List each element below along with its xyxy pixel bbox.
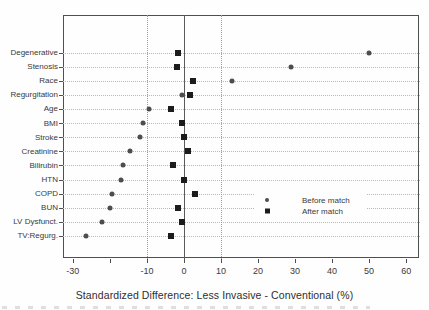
legend-label-after-match: After match (302, 206, 343, 215)
y-axis-tick (59, 208, 63, 209)
y-axis-tick (59, 151, 63, 152)
x-tick-label: 50 (364, 266, 374, 276)
x-tick-label: 20 (253, 266, 263, 276)
y-axis-tick (59, 81, 63, 82)
data-point-after-match (181, 134, 187, 140)
x-axis-tick (147, 259, 148, 263)
row-gridline (63, 236, 420, 237)
y-axis-tick (59, 222, 63, 223)
legend-label-before-match: Before match (302, 195, 350, 204)
y-axis-label: BUN (0, 203, 58, 212)
x-tick-label: 10 (216, 266, 226, 276)
before-match-circle-icon (265, 198, 269, 202)
y-axis-label: Race (0, 76, 58, 85)
x-tick-label: 40 (327, 266, 337, 276)
data-point-after-match (190, 78, 196, 84)
data-point-after-match (168, 233, 174, 239)
y-axis-tick (59, 67, 63, 68)
row-gridline (63, 81, 420, 82)
y-axis-label: Bilirubin (0, 161, 58, 170)
data-point-before-match (289, 64, 294, 69)
row-gridline (63, 137, 420, 138)
data-point-before-match (137, 135, 142, 140)
data-point-after-match (185, 148, 191, 154)
x-axis-tick (110, 259, 111, 263)
data-point-before-match (83, 233, 88, 238)
y-axis-label: Creatinine (0, 147, 58, 156)
y-axis-label: COPD (0, 189, 58, 198)
cropped-caption-artifact (2, 306, 370, 309)
data-point-after-match (175, 205, 181, 211)
legend: Before match After match (254, 194, 366, 218)
y-axis-tick (59, 137, 63, 138)
y-axis-label: Stenosis (0, 62, 58, 71)
data-point-before-match (141, 121, 146, 126)
vertical-gridline (221, 15, 222, 259)
y-axis-tick (59, 95, 63, 96)
y-axis-label: Degenerative (0, 48, 58, 57)
x-axis-tick (295, 259, 296, 263)
data-point-before-match (119, 177, 124, 182)
y-axis-tick (59, 109, 63, 110)
x-axis-tick (184, 259, 185, 263)
x-axis-tick (258, 259, 259, 263)
x-axis-tick (221, 259, 222, 263)
y-axis-tick (59, 53, 63, 54)
data-point-after-match (187, 92, 193, 98)
data-point-before-match (128, 149, 133, 154)
x-tick-label: 30 (290, 266, 300, 276)
data-point-after-match (179, 120, 185, 126)
x-axis-title: Standardized Difference: Less Invasive -… (0, 289, 429, 301)
row-gridline (63, 180, 420, 181)
after-match-square-icon (265, 208, 270, 213)
row-gridline (63, 123, 420, 124)
y-axis-tick (59, 180, 63, 181)
x-tick-label: -30 (66, 266, 79, 276)
row-gridline (63, 109, 420, 110)
row-gridline (63, 95, 420, 96)
y-axis-label: TV:Regurg. (0, 231, 58, 240)
row-gridline (63, 165, 420, 166)
forest-plot-figure: DegenerativeStenosisRaceRegurgitationAge… (0, 0, 429, 310)
data-point-after-match (170, 162, 176, 168)
y-axis-tick (59, 123, 63, 124)
x-axis-tick (73, 259, 74, 263)
vertical-gridline (147, 15, 148, 259)
data-point-after-match (175, 50, 181, 56)
y-axis-label: BMI (0, 119, 58, 128)
data-point-before-match (109, 191, 114, 196)
y-axis-label: HTN (0, 175, 58, 184)
y-axis-label: Stroke (0, 133, 58, 142)
legend-item-after-match: After match (254, 205, 366, 216)
data-point-before-match (180, 92, 185, 97)
data-point-before-match (367, 50, 372, 55)
data-point-after-match (168, 106, 174, 112)
data-point-before-match (100, 219, 105, 224)
data-point-after-match (179, 219, 185, 225)
x-tick-label: -10 (140, 266, 153, 276)
data-point-after-match (192, 191, 198, 197)
y-axis-label: Age (0, 104, 58, 113)
data-point-before-match (107, 205, 112, 210)
data-point-after-match (174, 64, 180, 70)
y-axis-label: Regurgitation (0, 90, 58, 99)
y-axis-label: LV Dysfunct. (0, 217, 58, 226)
data-point-after-match (181, 177, 187, 183)
y-axis-tick (59, 165, 63, 166)
row-gridline (63, 67, 420, 68)
y-axis-tick (59, 236, 63, 237)
data-point-before-match (120, 163, 125, 168)
data-point-before-match (230, 78, 235, 83)
x-axis-tick (406, 259, 407, 263)
y-axis-tick (59, 194, 63, 195)
x-tick-label: 0 (181, 266, 186, 276)
x-axis-tick (369, 259, 370, 263)
x-axis-tick (332, 259, 333, 263)
row-gridline (63, 222, 420, 223)
row-gridline (63, 151, 420, 152)
data-point-before-match (146, 106, 151, 111)
legend-item-before-match: Before match (254, 194, 366, 205)
x-tick-label: 60 (401, 266, 411, 276)
